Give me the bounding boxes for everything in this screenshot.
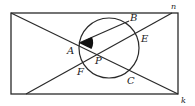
line-fpe xyxy=(26,13,172,94)
label-a: A xyxy=(66,45,74,56)
label-f: F xyxy=(76,66,85,77)
label-e: E xyxy=(140,33,149,44)
label-k: k xyxy=(181,96,186,105)
geometry-diagram: A B E P F C n k xyxy=(0,0,195,106)
label-p: P xyxy=(94,55,102,66)
line-apc xyxy=(11,13,178,94)
label-b: B xyxy=(129,12,137,23)
label-n: n xyxy=(171,2,176,11)
label-c: C xyxy=(127,75,135,86)
